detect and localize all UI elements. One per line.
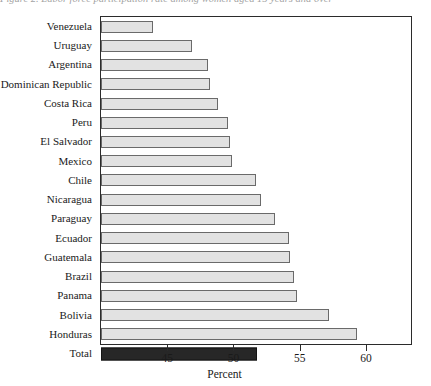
bar-row: [101, 229, 411, 248]
y-axis-label-total: Total: [0, 344, 96, 363]
y-axis-label-bolivia: Bolivia: [0, 306, 96, 325]
bar-dominican-republic: [101, 78, 210, 90]
bar-row: [101, 152, 411, 171]
bar-row: [101, 94, 411, 113]
bar-uruguay: [101, 40, 192, 52]
x-tick-label-55: 55: [280, 352, 320, 364]
bar-row: [101, 36, 411, 55]
y-axis-label-brazil: Brazil: [0, 267, 96, 286]
bar-panama: [101, 290, 297, 302]
y-axis-label-dominican-republic: Dominican Republic: [0, 75, 96, 94]
bar-row: [101, 209, 411, 228]
x-tick-label-45: 45: [147, 352, 187, 364]
bar-row: [101, 75, 411, 94]
y-axis-label-costa-rica: Costa Rica: [0, 94, 96, 113]
bar-brazil: [101, 271, 294, 283]
x-tick-mark-60: [366, 345, 367, 351]
bar-chart: VenezuelaUruguayArgentinaDominican Repub…: [0, 0, 431, 386]
bar-costa-rica: [101, 98, 218, 110]
bar-ecuador: [101, 232, 289, 244]
y-axis-label-paraguay: Paraguay: [0, 209, 96, 228]
bar-row: [101, 325, 411, 344]
bar-row: [101, 17, 411, 36]
bar-paraguay: [101, 213, 275, 225]
bar-row: [101, 190, 411, 209]
y-axis-label-peru: Peru: [0, 113, 96, 132]
bar-mexico: [101, 155, 232, 167]
y-axis-label-honduras: Honduras: [0, 325, 96, 344]
bar-row: [101, 113, 411, 132]
bar-row: [101, 286, 411, 305]
bar-nicaragua: [101, 194, 261, 206]
y-axis-label-mexico: Mexico: [0, 152, 96, 171]
y-axis-category-labels: VenezuelaUruguayArgentinaDominican Repub…: [0, 17, 96, 344]
x-axis-title: Percent: [0, 368, 431, 380]
y-axis-label-nicaragua: Nicaragua: [0, 190, 96, 209]
bar-bolivia: [101, 309, 329, 321]
bar-peru: [101, 117, 228, 129]
x-tick-mark-55: [300, 345, 301, 351]
y-axis-label-argentina: Argentina: [0, 55, 96, 74]
bar-row: [101, 132, 411, 151]
bar-argentina: [101, 59, 208, 71]
y-axis-label-venezuela: Venezuela: [0, 17, 96, 36]
y-axis-label-guatemala: Guatemala: [0, 248, 96, 267]
y-axis-label-chile: Chile: [0, 171, 96, 190]
bar-el-salvador: [101, 136, 230, 148]
bar-venezuela: [101, 21, 153, 33]
bar-row: [101, 55, 411, 74]
x-tick-mark-50: [233, 345, 234, 351]
x-tick-label-50: 50: [213, 352, 253, 364]
bar-guatemala: [101, 251, 290, 263]
y-axis-label-el-salvador: El Salvador: [0, 132, 96, 151]
bar-chile: [101, 174, 256, 186]
y-axis-label-panama: Panama: [0, 286, 96, 305]
bar-row: [101, 306, 411, 325]
y-axis-label-ecuador: Ecuador: [0, 229, 96, 248]
x-tick-label-60: 60: [346, 352, 386, 364]
bar-honduras: [101, 328, 357, 340]
x-tick-mark-45: [167, 345, 168, 351]
bar-row: [101, 248, 411, 267]
bar-row: [101, 267, 411, 286]
bar-row: [101, 171, 411, 190]
bar-rows: [101, 17, 411, 344]
y-axis-label-uruguay: Uruguay: [0, 36, 96, 55]
